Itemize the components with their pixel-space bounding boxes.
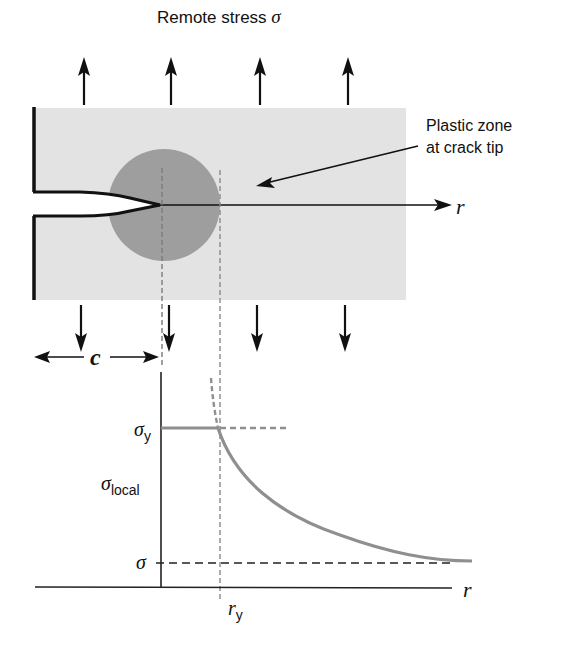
crack-length-dimension: c — [34, 344, 159, 370]
remote-stress-arrows-down — [75, 305, 351, 352]
r-axis-label: r — [463, 577, 472, 602]
plastic-zone-label: Plastic zone at crack tip — [426, 117, 517, 156]
elastic-singularity-extension — [211, 378, 218, 428]
sigma-remote-label: σ — [136, 551, 147, 573]
r-y-label: ry — [228, 597, 243, 623]
crack-length-label: c — [90, 344, 101, 370]
crack-tip-plastic-zone-diagram: Remote stress σ r Plastic zone at crack … — [0, 0, 563, 654]
sigma-local-label: σlocal — [101, 472, 140, 498]
sigma-y-label: σy — [134, 418, 151, 444]
remote-stress-arrows-up — [78, 57, 354, 105]
r-axis — [35, 587, 452, 588]
r-label-top: r — [456, 194, 465, 219]
local-stress-curve — [218, 428, 472, 561]
remote-stress-title: Remote stress σ — [157, 6, 281, 27]
